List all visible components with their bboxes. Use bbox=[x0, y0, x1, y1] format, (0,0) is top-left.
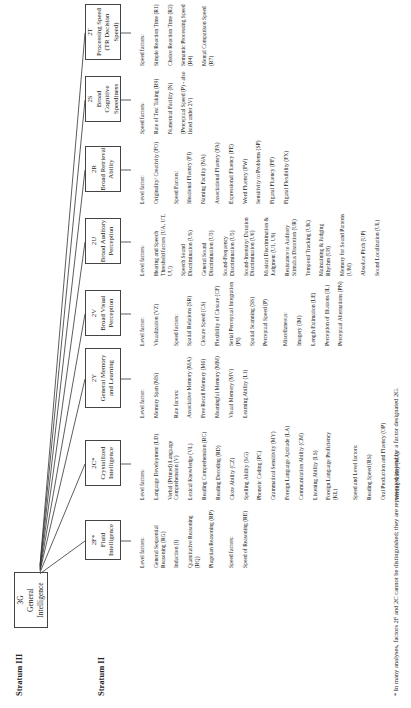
list-item: Sound-Intensity/ Duration Discrimination… bbox=[243, 210, 257, 276]
group-heading: Speed factors: bbox=[139, 0, 146, 66]
list-item: Memory Span (MS) bbox=[153, 352, 160, 418]
group-heading: Level factor: bbox=[139, 140, 146, 204]
group-heading: Speed factors: bbox=[228, 504, 235, 568]
stratum-ii-label: Stratum II bbox=[96, 657, 106, 696]
list-item: Perceptual Alternations (PN) bbox=[337, 280, 344, 346]
factor-code: 2S bbox=[86, 77, 95, 121]
list-item: Meaningful Memory (MM) bbox=[214, 352, 221, 418]
list-item: Naming Facility (NA) bbox=[200, 140, 207, 204]
list-item: Associative Memory (MA) bbox=[186, 352, 193, 418]
list-item: Expressional Fluency (FE) bbox=[228, 140, 235, 204]
list-item: Verbal (Printed) Language Comprehension … bbox=[167, 422, 181, 500]
list-item: Communication Ability (CM) bbox=[298, 422, 305, 500]
list-item: Reading Decoding (RD) bbox=[215, 422, 222, 500]
list-item: Learning Ability (L1) bbox=[242, 352, 249, 418]
list-item: Associational Fluency (FA) bbox=[214, 140, 221, 204]
list-item: Absolute Pitch (UP) bbox=[360, 210, 367, 276]
factor-name: Processing Speed (TR Decision Speed) bbox=[95, 5, 121, 59]
list-item: (Perceptual Speed (P) - also listed unde… bbox=[180, 70, 194, 134]
factor-list-2t: Speed factors: Simple Reaction Time (R1)… bbox=[132, 0, 228, 66]
list-item: General Sequential Reasoning (RG) bbox=[153, 504, 167, 568]
list-item: Figural Fluency (FF) bbox=[269, 140, 276, 204]
list-item: Spelling Ability (SG) bbox=[243, 422, 250, 500]
factor-list-2v: Level factor: Visualization (VZ) Speed f… bbox=[132, 280, 357, 346]
list-item: Language Development (LD) bbox=[153, 422, 160, 500]
factor-code: 2Y bbox=[90, 349, 99, 407]
factor-code: 2T bbox=[86, 5, 95, 59]
list-item: Semantic Processing Speed (R4) bbox=[180, 0, 194, 66]
factor-box-2c: 2C* Crystallized Intelligence bbox=[85, 440, 121, 486]
group-heading: Rate factors: bbox=[173, 352, 180, 418]
list-item: Induction (I) bbox=[173, 504, 180, 568]
group-heading: Speed and Level factors: bbox=[352, 422, 359, 500]
list-item: Sound-Frequency Discrimination (U5) bbox=[222, 210, 236, 276]
factor-name: Broad Cognitive Speediness bbox=[95, 77, 121, 121]
factor-name: Broad Auditory Perception bbox=[99, 219, 116, 263]
list-item: Foreign Language Aptitude (LA) bbox=[284, 422, 291, 500]
list-item: Grammatical Sensitivity (MY) bbox=[270, 422, 277, 500]
factor-name: Broad Visual Perception bbox=[99, 291, 116, 335]
group-heading: Speed Factors: bbox=[173, 140, 180, 204]
stratum-iii-label: Stratum III bbox=[14, 654, 24, 696]
list-item: Listening Ability (LS) bbox=[312, 422, 319, 500]
group-heading: Level factor: bbox=[139, 280, 146, 346]
group-heading: Level factors: bbox=[139, 210, 146, 276]
factor-box-2y: 2Y General Memory and Learning bbox=[85, 348, 121, 408]
factor-code: 2C* bbox=[90, 441, 99, 485]
factor-code: 2R bbox=[90, 147, 99, 191]
factor-list-2u: Level factors: Hearing and Speech Thresh… bbox=[132, 210, 394, 276]
list-item: Mental Comparison Speed (R7) bbox=[201, 0, 215, 66]
list-item: Cloze Ability (CZ) bbox=[229, 422, 236, 500]
list-item: Foreign Language Proficiency (KL) bbox=[325, 422, 339, 500]
factor-name: Broad Retrieval Ability bbox=[99, 147, 116, 191]
factor-list-2c: Level factors: Language Development (LD)… bbox=[132, 422, 411, 500]
list-item: Perceptual Speed (P) bbox=[262, 280, 269, 346]
list-item: Free Recall Memory (M6) bbox=[200, 352, 207, 418]
list-item: Imagery (IM) bbox=[296, 280, 303, 346]
factor-list-2y: Level factor: Memory Span (MS) Rate fact… bbox=[132, 352, 261, 418]
list-item: Hearing and Speech Threshold factors (UA… bbox=[153, 210, 174, 276]
group-heading: Level factors: bbox=[139, 422, 146, 500]
list-item: Quantitative Reasoning (RQ) bbox=[187, 504, 201, 568]
list-item: Piagetian Reasoning (RP) bbox=[208, 504, 215, 568]
factor-list-2f: Level factors: General Sequential Reason… bbox=[132, 504, 261, 568]
list-item: Choice Reaction Time (R2) bbox=[167, 0, 174, 66]
list-item: Spatial Relations (SR) bbox=[186, 280, 193, 346]
list-item: Rate of Test Taking (R9) bbox=[153, 70, 160, 134]
factor-box-2f: 2F* Fluid Intelligence bbox=[85, 520, 121, 560]
list-item: Speed of Reasoning (RE) bbox=[242, 504, 249, 568]
list-item: Oral Production and Fluency (OP) bbox=[380, 422, 387, 500]
list-item: Numerical Facility (N) bbox=[167, 70, 174, 134]
list-item: Reading Comprehension (RC) bbox=[201, 422, 208, 500]
factor-list-2s: Speed factors: Rate of Test Taking (R9) … bbox=[132, 70, 207, 134]
factor-box-2t: 2T Processing Speed (TR Decision Speed) bbox=[85, 4, 121, 60]
list-item: Temporal Tracking (UK) bbox=[305, 210, 312, 276]
factor-box-2u: 2U Broad Auditory Perception bbox=[85, 218, 121, 264]
general-code: 3G bbox=[16, 573, 26, 627]
group-heading: Speed factors: bbox=[139, 70, 146, 134]
group-heading: Level factors: bbox=[139, 504, 146, 568]
factor-code: 2V bbox=[90, 291, 99, 335]
list-item: Musical Discrimination & Judgment (U1, U… bbox=[263, 210, 277, 276]
list-item: Visual Memory (MV) bbox=[228, 352, 235, 418]
list-item: Perception of Illusions (IL) bbox=[324, 280, 331, 346]
list-item: General Sound Discrimination (U3) bbox=[201, 210, 215, 276]
list-item: Closure Speed (CS) bbox=[200, 280, 207, 346]
footnote: * In many analyses, factors 2F and 2C ca… bbox=[392, 388, 399, 696]
factor-box-2r: 2R Broad Retrieval Ability bbox=[85, 146, 121, 192]
list-item: Length Estimation (LE) bbox=[310, 280, 317, 346]
list-item: Phonetic Coding (PC) bbox=[256, 422, 263, 500]
list-item: Resistance to Auditory Stimulus Distorti… bbox=[284, 210, 298, 276]
list-item: Ideational Fluency (FI) bbox=[186, 140, 193, 204]
diagram-canvas: Stratum III Stratum II 3G General Intell… bbox=[0, 0, 411, 708]
list-item: Sensitivity to Problems (SP) bbox=[255, 140, 262, 204]
factor-code: 2F* bbox=[90, 521, 99, 559]
list-item: Word Fluency (FW) bbox=[242, 140, 249, 204]
list-item: Maintaining & Judging Rhythm (U8) bbox=[318, 210, 332, 276]
list-item: Flexibility of Closure (CF) bbox=[214, 280, 221, 346]
list-item: Spatial Scanning (SS) bbox=[249, 280, 256, 346]
general-name: General Intelligence bbox=[26, 573, 46, 627]
group-heading: Miscellaneous: bbox=[282, 280, 289, 346]
list-item: Visualization (VZ) bbox=[153, 280, 160, 346]
list-item: Serial Perceptual Integration (PI) bbox=[228, 280, 242, 346]
